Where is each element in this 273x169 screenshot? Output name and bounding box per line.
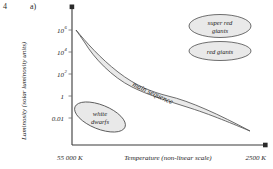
super-red-giants-label-line1: super red bbox=[208, 19, 234, 26]
y-tick-exponent-2: 2 bbox=[65, 69, 68, 74]
white-dwarfs-label-line2: dwarfs bbox=[91, 118, 109, 125]
y-tick-label-0: 10 bbox=[57, 27, 65, 35]
y-tick-label-4: 0.01 bbox=[52, 115, 64, 123]
region-super-red-giants: super red giants bbox=[189, 15, 251, 38]
white-dwarfs-ellipse bbox=[70, 96, 129, 138]
white-dwarfs-label-line1: white bbox=[93, 110, 107, 117]
y-tick-label-1: 10 bbox=[57, 49, 65, 57]
x-axis-left-label: 55 000 K bbox=[57, 154, 83, 162]
y-axis-end-marker bbox=[70, 5, 75, 10]
y-axis-tick-labels: 10 6 10 4 10 2 1 0.01 bbox=[52, 25, 68, 123]
super-red-giants-label-line2: giants bbox=[212, 27, 229, 34]
hr-diagram-figure: 4 a) 10 6 10 4 10 2 1 0.01 bbox=[0, 0, 273, 169]
red-giants-label: red giants bbox=[207, 48, 234, 55]
x-axis-title: Temperature (non-linear scale) bbox=[124, 154, 212, 162]
y-axis-title: Luminosity (solar luminosity units) bbox=[20, 41, 28, 141]
x-axis-end-marker bbox=[263, 143, 268, 148]
main-sequence-label: main sequence bbox=[131, 80, 175, 107]
x-axis-right-label: 2500 K bbox=[246, 154, 267, 162]
hr-diagram-plot: 10 6 10 4 10 2 1 0.01 Luminosity (solar … bbox=[0, 0, 273, 169]
y-tick-exponent-1: 4 bbox=[65, 47, 68, 52]
y-tick-label-2: 10 bbox=[57, 71, 65, 79]
super-red-giants-ellipse bbox=[189, 15, 251, 38]
region-red-giants: red giants bbox=[189, 42, 251, 61]
region-white-dwarfs: white dwarfs bbox=[70, 96, 129, 138]
y-tick-exponent-0: 6 bbox=[65, 25, 68, 30]
y-tick-label-3: 1 bbox=[61, 93, 65, 101]
